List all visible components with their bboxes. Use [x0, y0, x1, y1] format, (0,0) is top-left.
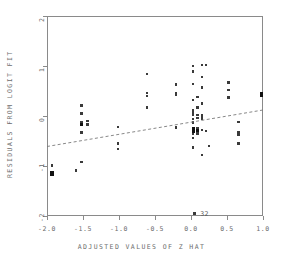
x-tick-mark — [191, 216, 192, 220]
x-tick-label: -0.5 — [135, 225, 175, 233]
x-tick-mark — [155, 216, 156, 220]
x-tick-mark — [83, 216, 84, 220]
trend-line — [47, 16, 263, 216]
y-axis-title: RESIDUALS FROM LOGIT FIT — [6, 50, 14, 178]
y-tick-label: 2 — [38, 17, 46, 22]
x-tick-label: -1.5 — [63, 225, 103, 233]
x-tick-label: -1.0 — [99, 225, 139, 233]
x-tick-label: 0.0 — [171, 225, 211, 233]
x-tick-label: -2.0 — [27, 225, 67, 233]
y-tick-label: 1 — [38, 67, 46, 72]
x-axis-title: ADJUSTED VALUES OF Z HAT — [0, 243, 283, 251]
x-tick-label: 1.0 — [243, 225, 283, 233]
x-tick-mark — [119, 216, 120, 220]
x-tick-label: 0.5 — [207, 225, 247, 233]
x-tick-mark — [47, 216, 48, 220]
y-tick-label: -1 — [38, 163, 46, 172]
point-annotation-32: 32 — [200, 210, 209, 218]
x-tick-mark — [227, 216, 228, 220]
y-tick-label: 0 — [38, 117, 46, 122]
x-tick-mark — [263, 216, 264, 220]
data-points-layer: 32 — [47, 16, 263, 216]
scatter-plot-figure: -2.0-1.5-1.0-0.50.00.51.0 210-1-2 32 ADJ… — [0, 0, 283, 265]
y-tick-label: -2 — [38, 213, 46, 222]
